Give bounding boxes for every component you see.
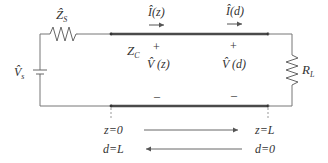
characteristic-impedance-label: ZC	[127, 44, 140, 60]
voltage-d-label: V̂ (d)	[222, 58, 246, 70]
transmission-line-diagram	[0, 0, 328, 163]
voltage-z-label: V̂ (z)	[147, 58, 170, 70]
source-impedance-label: ẐS	[56, 8, 67, 24]
source-voltage-label: V̂s	[14, 66, 24, 81]
d-start-label: d=L	[103, 143, 124, 155]
z-end-label: z=L	[255, 124, 274, 136]
source-wires	[40, 34, 111, 106]
current-z-label: Î(z)	[148, 6, 165, 18]
voltage-d-plus: +	[230, 40, 237, 52]
voltage-z-minus: –	[154, 90, 160, 102]
source-resistor-icon	[50, 27, 78, 41]
position-ticks	[111, 108, 268, 120]
voltage-d-minus: –	[231, 89, 237, 101]
z-start-label: z=0	[104, 124, 123, 136]
voltage-z-plus: +	[153, 41, 160, 53]
voltage-source-icon	[33, 70, 47, 77]
load-resistor-icon	[286, 55, 298, 85]
load-wires	[268, 34, 292, 106]
d-end-label: d=0	[255, 143, 275, 155]
current-d-label: Î(d)	[226, 5, 244, 17]
load-resistance-label: RL	[302, 63, 314, 79]
